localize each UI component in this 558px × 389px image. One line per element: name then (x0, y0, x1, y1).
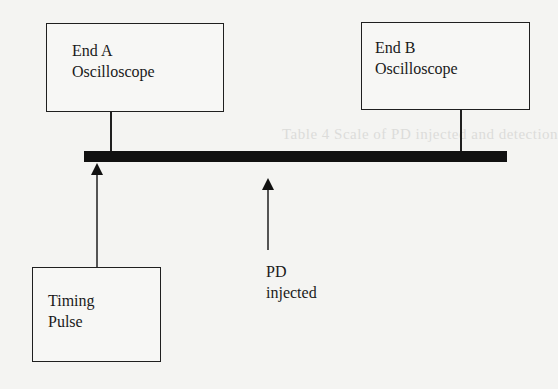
pd-injected-label-line2: injected (266, 282, 317, 303)
timing-label-line2: Pulse (48, 311, 83, 332)
pd-injection-arrow-icon (262, 178, 274, 250)
timing-label-line1: Timing (48, 290, 95, 311)
pd-injected-label-line1: PD (266, 261, 286, 282)
timing-arrow-icon (91, 163, 103, 268)
